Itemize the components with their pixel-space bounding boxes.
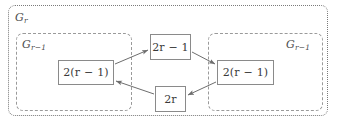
edge-top-to-right [192, 52, 215, 64]
node-2r[interactable]: 2r [155, 86, 186, 112]
node-2r-minus-1[interactable]: 2r − 1 [150, 34, 191, 60]
node-left-2r-minus-1-paren[interactable]: 2(r − 1) [58, 60, 114, 85]
node-right-2r-minus-1-paren[interactable]: 2(r − 1) [217, 60, 274, 85]
figure-canvas: Gr Gr−1 Gr−1 2r − 1 2(r − 1) 2(r − 1) 2r [0, 0, 339, 126]
node-right-2r-minus-1-paren-label: 2(r − 1) [223, 66, 269, 79]
node-left-2r-minus-1-paren-label: 2(r − 1) [63, 66, 109, 79]
edge-bottom-to-left [116, 81, 154, 94]
edge-right-to-bottom [188, 82, 216, 95]
node-2r-label: 2r [164, 93, 177, 106]
node-2r-minus-1-label: 2r − 1 [152, 41, 189, 54]
edge-left-to-top [115, 50, 148, 64]
